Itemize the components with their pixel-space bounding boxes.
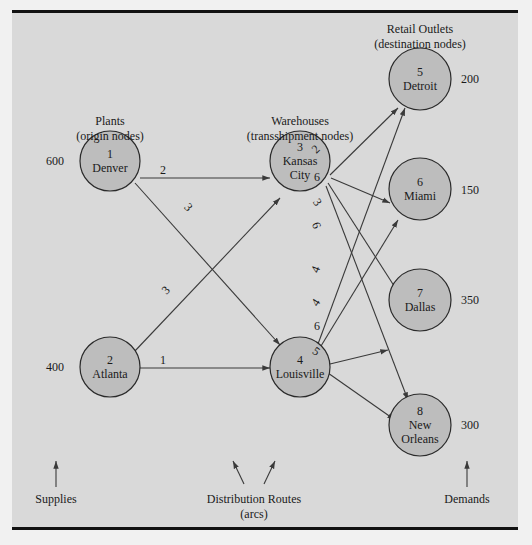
demand-new-orleans: 300: [461, 418, 479, 433]
plants-header: Plants (origin nodes): [60, 114, 160, 144]
routes-arrow-right: [264, 461, 275, 484]
arc-2-3: [134, 198, 280, 352]
node-6-label: 6 Miami: [385, 175, 455, 203]
demand-dallas: 350: [461, 293, 479, 308]
node-1-label: 1 Denver: [75, 147, 145, 175]
demands-label: Demands: [437, 492, 497, 507]
demand-miami: 150: [461, 183, 479, 198]
demand-detroit: 200: [461, 72, 479, 87]
supplies-label: Supplies: [28, 492, 84, 507]
supply-atlanta: 400: [46, 360, 64, 375]
arc-1-4: [135, 183, 280, 345]
cost-2-4: 1: [160, 353, 166, 368]
arc-4-7: [330, 350, 388, 364]
routes-arrow-left: [233, 461, 244, 484]
node-5-label: 5 Detroit: [385, 65, 455, 93]
arc-3-6: [331, 178, 390, 203]
node-3-label: 3 Kansas City: [265, 140, 335, 182]
retail-header: Retail Outlets (destination nodes): [370, 22, 470, 52]
node-2-label: 2 Atlanta: [75, 353, 145, 381]
node-4-label: 4 Louisville: [265, 353, 335, 381]
node-8-label: 8 New Orleans: [385, 404, 455, 446]
cost-1-3: 2: [160, 163, 166, 178]
arc-4-6: [321, 220, 398, 346]
cost-3-6: 6: [314, 170, 320, 185]
node-7-label: 7 Dallas: [385, 286, 455, 314]
supply-denver: 600: [46, 154, 64, 169]
routes-label: Distribution Routes (arcs): [194, 492, 314, 522]
cost-4-7: 6: [314, 319, 320, 334]
